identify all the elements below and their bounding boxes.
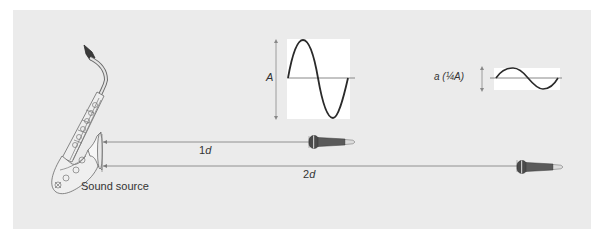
distance-label-1d: 1d	[199, 144, 211, 156]
amplitude-label-a: a (¼A)	[434, 71, 464, 82]
amplitude-label-a-paren: (¼A)	[442, 71, 464, 82]
waveform-far	[480, 66, 562, 92]
microphone-icon	[517, 161, 563, 174]
amplitude-label-a-main: a	[434, 71, 440, 82]
distance-label-2d: 2d	[303, 168, 315, 180]
saxophone-icon	[52, 45, 106, 194]
microphone-icon	[309, 136, 355, 149]
distance-2d-variable: d	[309, 168, 315, 180]
diagram-canvas	[0, 0, 604, 240]
distance-1d-variable: d	[205, 144, 211, 156]
amplitude-label-A: A	[266, 71, 273, 83]
waveform-near	[274, 39, 355, 120]
sound-source-label: Sound source	[81, 180, 149, 192]
